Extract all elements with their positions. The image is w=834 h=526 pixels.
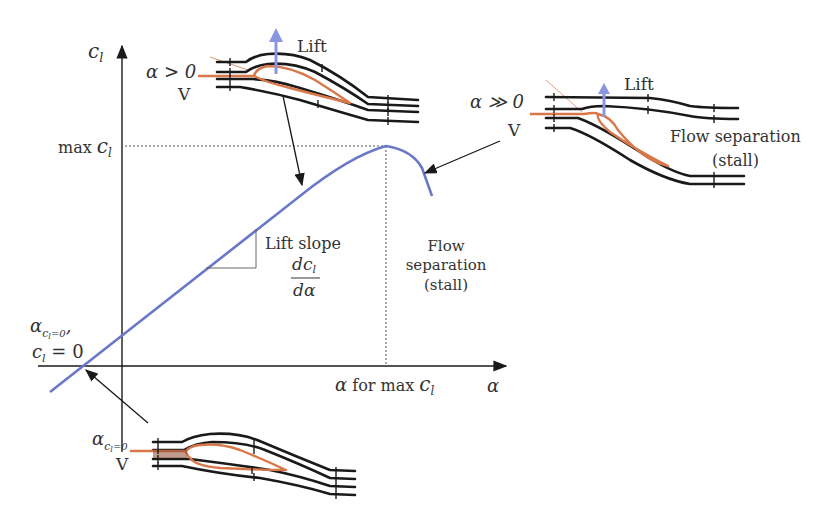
lift-curve	[50, 146, 432, 392]
pointer-arrow-positive	[283, 96, 302, 185]
inset-high-caption-2: (stall)	[712, 151, 759, 170]
lift-slope-label: Lift slope	[265, 234, 341, 253]
pointer-arrow-stall	[425, 141, 500, 173]
stall-label-line3: (stall)	[424, 276, 468, 294]
airfoil	[530, 113, 668, 166]
x-axis-label: α	[487, 375, 499, 396]
inset-zero-velocity: V	[115, 454, 129, 474]
alpha-for-max-cl-label: α for max cl	[335, 372, 435, 398]
lift-arrow-head	[598, 83, 610, 94]
pointer-arrow-zero-lift	[86, 370, 148, 423]
zero-lift-alpha-label: αcl=0,	[30, 315, 71, 341]
lift-slope-numerator: dcl	[292, 254, 316, 276]
inset-positive-aoa: α > 0 V Lift	[146, 28, 418, 125]
y-axis-label: cl	[88, 39, 103, 65]
lift-slope-denominator: dα	[293, 280, 316, 300]
chord-line	[210, 57, 248, 70]
stall-label-line1: Flow	[427, 237, 464, 255]
inset-high-lift-label: Lift	[624, 74, 654, 94]
stall-region-label: Flow separation (stall)	[406, 237, 487, 294]
inset-zero-lift: αcl=0 V	[92, 428, 355, 499]
lift-arrow-head	[269, 28, 283, 42]
zero-lift-cl-label: cl = 0	[32, 341, 84, 365]
inset-positive-velocity: V	[177, 84, 191, 104]
inset-positive-condition: α > 0	[146, 61, 196, 82]
stall-label-line2: separation	[406, 256, 487, 274]
inset-high-aoa: α ≫ 0 V Lift Flow separation (stall)	[470, 74, 801, 188]
inset-zero-condition: αcl=0	[92, 428, 128, 454]
inset-high-velocity: V	[507, 120, 521, 140]
inset-high-condition: α ≫ 0	[470, 91, 524, 112]
lift-curve-diagram: cl α max cl α for max cl Lift slope dcl …	[0, 0, 834, 526]
max-cl-label: max cl	[58, 134, 112, 160]
inset-positive-lift-label: Lift	[297, 36, 327, 56]
inset-high-caption-1: Flow separation	[670, 127, 801, 146]
streamline	[546, 97, 738, 108]
